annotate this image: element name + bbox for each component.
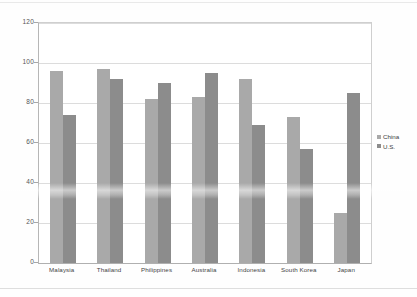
chart-legend: ChinaU.S.: [377, 133, 399, 152]
legend-swatch-icon: [377, 144, 381, 148]
bar-china-japan: [334, 213, 347, 263]
y-axis-tick-label: 100: [4, 58, 34, 65]
bar-china-south-korea: [287, 117, 300, 263]
scan-edge-line-bottom: [0, 288, 417, 289]
legend-item: U.S.: [377, 143, 399, 150]
bar-china-indonesia: [239, 79, 252, 263]
bar-china-australia: [192, 97, 205, 263]
bar-chart-figure: 020406080100120 MalaysiaThailandPhilippi…: [0, 0, 417, 297]
legend-item-label: China: [383, 133, 399, 140]
x-axis-tick-label: Japan: [316, 266, 376, 273]
bar-us-philippines: [158, 83, 171, 263]
bar-china-philippines: [145, 99, 158, 263]
bar-us-south-korea: [300, 149, 313, 263]
y-axis-tick-label: 80: [4, 98, 34, 105]
y-axis-tick-label: 0: [4, 258, 34, 265]
bar-group: [145, 23, 171, 263]
legend-swatch-icon: [377, 135, 381, 139]
legend-item: China: [377, 133, 399, 140]
bar-us-thailand: [110, 79, 123, 263]
bar-us-australia: [205, 73, 218, 263]
scan-edge-line-top: [0, 2, 417, 3]
bar-group: [239, 23, 265, 263]
bar-group: [192, 23, 218, 263]
bar-us-japan: [347, 93, 360, 263]
y-axis-tick-label: 20: [4, 218, 34, 225]
y-axis-tick-label: 60: [4, 138, 34, 145]
bar-china-malaysia: [50, 71, 63, 263]
bar-china-thailand: [97, 69, 110, 263]
bar-us-indonesia: [252, 125, 265, 263]
bar-group: [50, 23, 76, 263]
plot-area: [38, 22, 372, 264]
y-axis-tick-label: 40: [4, 178, 34, 185]
legend-item-label: U.S.: [383, 143, 395, 150]
bar-us-malaysia: [63, 115, 76, 263]
bar-group: [97, 23, 123, 263]
bar-group: [334, 23, 360, 263]
y-axis-tick-label: 120: [4, 18, 34, 25]
bar-group: [287, 23, 313, 263]
